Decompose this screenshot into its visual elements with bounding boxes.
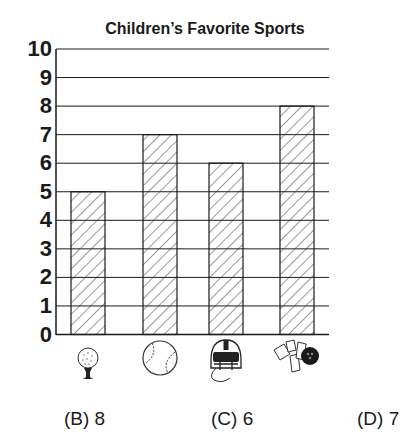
golf-ball-on-tee-icon <box>78 348 98 379</box>
y-tick-label: 3 <box>4 238 52 260</box>
bar-bowling <box>280 106 314 334</box>
y-tick-label: 5 <box>4 181 52 203</box>
football-helmet-icon <box>211 340 241 382</box>
answer-option-c[interactable]: (C) 6 <box>211 408 253 430</box>
option-value: 6 <box>243 408 254 429</box>
y-tick-label: 9 <box>4 67 52 89</box>
y-tick-label: 7 <box>4 124 52 146</box>
y-tick-label: 4 <box>4 209 52 231</box>
bowling-pins-and-ball-icon <box>274 340 319 372</box>
y-tick-label: 10 <box>4 38 52 60</box>
bar-baseball <box>143 135 177 335</box>
y-tick-label: 0 <box>4 324 52 346</box>
option-letter: (B) <box>64 408 89 429</box>
y-tick-label: 6 <box>4 152 52 174</box>
answer-option-b[interactable]: (B) 8 <box>64 408 105 430</box>
y-tick-label: 8 <box>4 95 52 117</box>
category-icons <box>78 340 319 382</box>
bar-chart <box>0 0 408 443</box>
option-value: 7 <box>389 408 400 429</box>
option-value: 8 <box>95 408 106 429</box>
option-letter: (C) <box>211 408 237 429</box>
y-tick-label: 2 <box>4 266 52 288</box>
answer-option-d[interactable]: (D) 7 <box>357 408 399 430</box>
option-letter: (D) <box>357 408 383 429</box>
bar-football <box>209 163 243 334</box>
bar-golf <box>71 192 105 335</box>
y-tick-label: 1 <box>4 295 52 317</box>
baseball-icon <box>143 341 177 375</box>
